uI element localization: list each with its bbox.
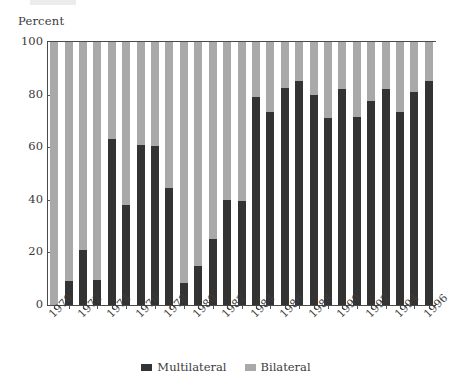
stacked-bar [425,42,433,305]
y-axis-tick-label: 60 [5,141,43,153]
bar-segment-multilateral [396,112,404,305]
stacked-bar [266,42,274,305]
bar-segment-bilateral [310,42,318,95]
bar-segment-bilateral [79,42,87,250]
stacked-bar [410,42,418,305]
bar-segment-bilateral [324,42,332,118]
legend-item-multilateral: Multilateral [141,360,226,374]
bar-segment-bilateral [122,42,130,205]
bar-segment-bilateral [180,42,188,283]
bar-segment-bilateral [65,42,73,281]
bar-segment-bilateral [223,42,231,200]
y-axis-tick-label: 80 [5,89,43,101]
y-axis-tick-label: 40 [5,194,43,206]
legend-label-bilateral: Bilateral [261,360,311,374]
bar-segment-multilateral [122,205,130,305]
stacked-bar [180,42,188,305]
bar-segment-bilateral [151,42,159,146]
stacked-bar [281,42,289,305]
bar-segment-bilateral [367,42,375,101]
stacked-bar [194,42,202,305]
bar-segment-bilateral [50,42,58,305]
bar-segment-bilateral [338,42,346,89]
stacked-bar [353,42,361,305]
bar-segment-bilateral [353,42,361,117]
bar-segment-bilateral [252,42,260,97]
bar-segment-multilateral [410,92,418,305]
bar-series-group [47,42,436,305]
legend-label-multilateral: Multilateral [157,360,226,374]
stacked-bar [122,42,130,305]
dark-square-swatch-icon [141,364,152,371]
y-axis-tick-label: 20 [5,246,43,258]
stacked-bar [338,42,346,305]
bar-segment-bilateral [281,42,289,88]
bar-segment-bilateral [108,42,116,139]
stacked-bar [50,42,58,305]
stacked-bar [396,42,404,305]
bar-segment-multilateral [238,201,246,305]
stacked-bar [295,42,303,305]
chart-legend: Multilateral Bilateral [0,360,452,374]
stacked-bar [209,42,217,305]
stacked-bar [79,42,87,305]
bar-segment-bilateral [410,42,418,92]
bar-segment-multilateral [137,145,145,305]
stacked-bar [108,42,116,305]
bar-segment-bilateral [266,42,274,112]
bar-segment-multilateral [367,101,375,305]
stacked-bar [137,42,145,305]
bar-segment-multilateral [338,89,346,305]
bar-segment-multilateral [295,81,303,305]
bar-segment-multilateral [151,146,159,305]
stacked-bar [93,42,101,305]
bar-segment-bilateral [425,42,433,81]
bar-segment-multilateral [223,200,231,305]
y-axis-tick-label: 100 [5,36,43,48]
light-square-swatch-icon [245,364,256,371]
bar-segment-bilateral [194,42,202,266]
stacked-bar [238,42,246,305]
bar-segment-multilateral [79,250,87,305]
bar-segment-multilateral [310,95,318,305]
bar-segment-multilateral [165,188,173,305]
bar-segment-multilateral [266,112,274,305]
bar-segment-bilateral [382,42,390,89]
stacked-bar [65,42,73,305]
bar-segment-multilateral [382,89,390,305]
bar-segment-bilateral [209,42,217,239]
bar-segment-multilateral [425,81,433,305]
stacked-bar [382,42,390,305]
x-axis-tick-labels: 1970197219741976197819801982198419861988… [0,306,452,356]
bar-segment-multilateral [108,139,116,305]
bar-segment-bilateral [396,42,404,112]
chart-figure: Percent 020406080100 1970197219741976197… [0,0,452,388]
stacked-bar [324,42,332,305]
stacked-bar [151,42,159,305]
bar-segment-bilateral [295,42,303,81]
bar-segment-bilateral [238,42,246,201]
stacked-bar [310,42,318,305]
bar-segment-multilateral [324,118,332,305]
stacked-bar [223,42,231,305]
stacked-bar [252,42,260,305]
bar-segment-bilateral [165,42,173,188]
bar-segment-multilateral [353,117,361,305]
stacked-bar [165,42,173,305]
bar-segment-bilateral [93,42,101,280]
bar-segment-bilateral [137,42,145,145]
legend-item-bilateral: Bilateral [245,360,311,374]
bar-segment-multilateral [281,88,289,305]
stacked-bar [367,42,375,305]
bar-segment-multilateral [252,97,260,305]
